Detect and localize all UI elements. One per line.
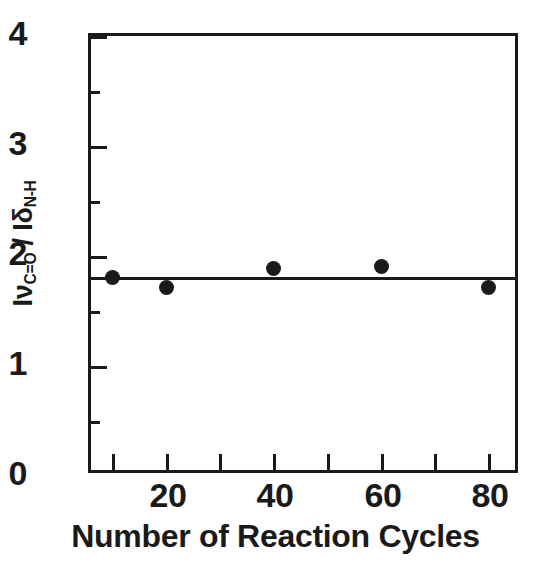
y-axis-title: IνC=O / IδN-H [10, 84, 37, 404]
ytick-major-3 [91, 146, 107, 149]
ytick-minor-0.5 [91, 421, 100, 424]
xtick-50 [327, 454, 330, 470]
x-axis-title: Number of Reaction Cycles [0, 520, 551, 552]
y-axis-title-term2-sub: N-H [22, 180, 39, 207]
xtick-10 [112, 454, 115, 470]
y-axis-title-term1: Iν [8, 284, 38, 306]
ytick-minor-3.5 [91, 91, 100, 94]
y-axis-title-term2: Iδ [8, 207, 38, 230]
xtick-40 [273, 454, 276, 470]
y-axis-title-separator: / [8, 231, 38, 253]
xtick-label-20: 20 [133, 478, 203, 512]
ytick-label-4: 4 [9, 16, 27, 50]
ytick-major-2 [91, 256, 107, 259]
reference-line [88, 277, 518, 280]
ytick-major-1 [91, 366, 107, 369]
y-axis-title-term1-sub: C=O [22, 253, 39, 285]
ytick-minor-1.5 [91, 311, 100, 314]
data-point [159, 280, 174, 295]
data-point [481, 280, 496, 295]
xtick-80 [488, 454, 491, 470]
xtick-70 [434, 454, 437, 470]
xtick-label-60: 60 [348, 478, 418, 512]
chart-figure: 4 3 2 1 0 20 40 60 80 [0, 0, 551, 579]
data-point [266, 261, 281, 276]
xtick-20 [166, 454, 169, 470]
xtick-label-40: 40 [240, 478, 310, 512]
data-point [374, 259, 389, 274]
xtick-label-80: 80 [455, 478, 525, 512]
data-point [105, 270, 120, 285]
ytick-major-0 [91, 470, 107, 473]
ytick-label-0: 0 [9, 456, 27, 490]
xtick-60 [381, 454, 384, 470]
ytick-minor-2.5 [91, 201, 100, 204]
plot-area [88, 33, 518, 473]
ytick-major-4 [91, 36, 107, 39]
xtick-30 [219, 454, 222, 470]
